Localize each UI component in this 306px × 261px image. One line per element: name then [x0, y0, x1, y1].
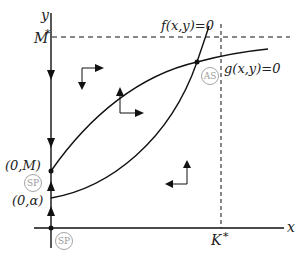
direction-indicator-top-left — [78, 64, 104, 90]
svg-text:SP: SP — [58, 236, 70, 246]
k-star-superscript: * — [223, 230, 229, 243]
m-star-superscript: * — [45, 27, 51, 40]
f-nullcline-curve — [51, 26, 209, 198]
x-axis-label: x — [287, 219, 295, 235]
k-star-label: K — [210, 232, 223, 248]
phase-plane-diagram: y x M * K * f(x,y)=0 g(x,y)=0 (0,M) (0,α… — [0, 0, 306, 261]
y-axis-label: y — [40, 7, 50, 23]
y-axis-up-arrow-icon — [47, 181, 55, 191]
sp-badge-origin: SP — [56, 233, 73, 250]
y-axis-up-arrow-icon — [47, 206, 55, 216]
svg-text:AS: AS — [203, 71, 217, 81]
point-as — [195, 60, 200, 65]
y-axis-down-arrow-icon — [47, 70, 55, 80]
point-origin — [49, 226, 54, 231]
f-nullcline-label: f(x,y)=0 — [160, 18, 214, 33]
g-nullcline-label: g(x,y)=0 — [224, 61, 280, 76]
zero-m-label: (0,M) — [5, 158, 41, 173]
as-badge: AS — [202, 68, 219, 85]
svg-text:SP: SP — [27, 178, 39, 188]
y-axis-down-arrow-icon — [47, 138, 55, 148]
zero-alpha-label: (0,α) — [12, 193, 43, 208]
point-zero-m — [49, 169, 54, 174]
direction-indicator-bottom-right — [165, 160, 191, 188]
sp-badge-axis: SP — [25, 175, 42, 192]
